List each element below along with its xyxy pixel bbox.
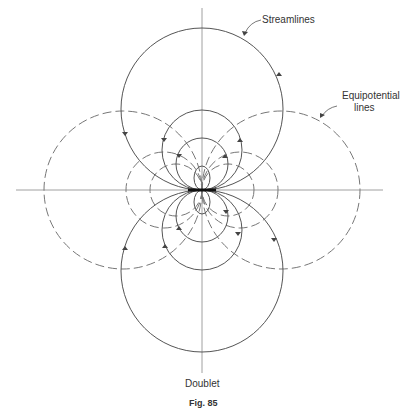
figure-caption: Fig. 85: [189, 398, 218, 408]
arrow-icon: [122, 132, 128, 136]
arrow-icon: [235, 232, 241, 236]
leader-arrow-icon: [320, 113, 325, 118]
doublet-flow-diagram: [0, 0, 403, 417]
arrow-icon: [122, 246, 128, 250]
leader-arrow-icon: [242, 31, 248, 36]
doublet-label: Doublet: [185, 379, 219, 389]
equipotential-label-line2: lines: [354, 103, 375, 113]
equipotential-label-line1: Equipotential: [342, 91, 400, 101]
arrow-icon: [176, 226, 182, 230]
arrow-icon: [276, 72, 282, 76]
arrow-icon: [237, 138, 243, 142]
doublet-source-sink: [188, 189, 216, 192]
arrow-icon: [162, 244, 168, 248]
streamlines-leader-line: [245, 20, 261, 33]
arrow-icon: [161, 138, 167, 142]
streamlines-label: Streamlines: [262, 15, 315, 25]
equipotential-leader-line: [322, 106, 337, 116]
arrow-icon: [271, 238, 277, 242]
